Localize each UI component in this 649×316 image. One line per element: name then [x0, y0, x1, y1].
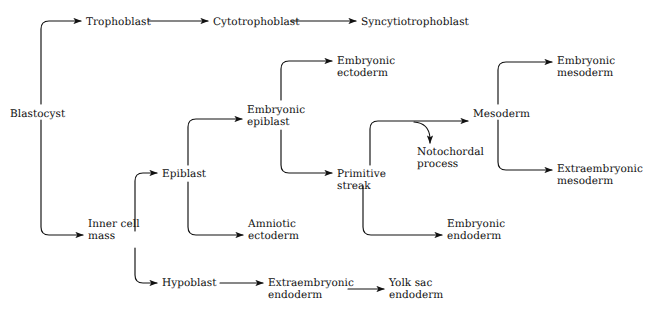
edge-primitive-streak-to-notochordal-process [414, 122, 430, 143]
node-embryonic-mesoderm[interactable]: Embryonic mesoderm [557, 55, 615, 79]
node-embryonic-epiblast[interactable]: Embryonic epiblast [247, 104, 305, 128]
node-amniotic-ectoderm[interactable]: Amniotic ectoderm [248, 218, 299, 242]
node-cytotrophoblast[interactable]: Cytotrophoblast [213, 16, 300, 28]
edge-mesoderm-to-embryonic-mesoderm [498, 62, 552, 104]
edge-epiblast-to-embryonic-epiblast [188, 119, 242, 165]
edge-epiblast-to-amniotic-ectoderm [188, 182, 243, 235]
node-embryonic-endoderm[interactable]: Embryonic endoderm [447, 218, 505, 242]
node-primitive-streak[interactable]: Primitive streak [337, 168, 386, 192]
node-notochordal-process[interactable]: Notochordal process [417, 146, 484, 170]
edge-blastocyst-to-trophoblast [41, 21, 81, 104]
node-trophoblast[interactable]: Trophoblast [86, 16, 151, 28]
edge-inner-cell-mass-to-hypoblast [135, 248, 157, 283]
node-blastocyst[interactable]: Blastocyst [10, 108, 65, 120]
edge-embryonic-epiblast-to-primitive-streak [281, 130, 332, 173]
node-embryonic-ectoderm[interactable]: Embryonic ectoderm [337, 55, 395, 79]
node-epiblast[interactable]: Epiblast [162, 168, 206, 180]
edge-blastocyst-to-inner-cell-mass [41, 120, 83, 235]
node-yolk-sac-endoderm[interactable]: Yolk sac endoderm [389, 277, 443, 301]
flowchart-canvas: Blastocyst Trophoblast Cytotrophoblast S… [0, 0, 649, 316]
node-extraembryonic-endoderm[interactable]: Extraembryonic endoderm [268, 277, 354, 301]
node-extraembryonic-mesoderm[interactable]: Extraembryonic mesoderm [557, 163, 643, 187]
edge-embryonic-epiblast-to-embryonic-ectoderm [281, 61, 332, 100]
edge-primitive-streak-to-embryonic-endoderm [363, 186, 442, 235]
flowchart-connectors [0, 0, 649, 316]
edge-mesoderm-to-extraembryonic-mesoderm [498, 120, 552, 170]
node-hypoblast[interactable]: Hypoblast [162, 277, 217, 289]
node-syncytiotrophoblast[interactable]: Syncytiotrophoblast [361, 16, 469, 28]
node-mesoderm[interactable]: Mesoderm [473, 108, 530, 120]
node-inner-cell-mass[interactable]: Inner cell mass [88, 218, 140, 242]
